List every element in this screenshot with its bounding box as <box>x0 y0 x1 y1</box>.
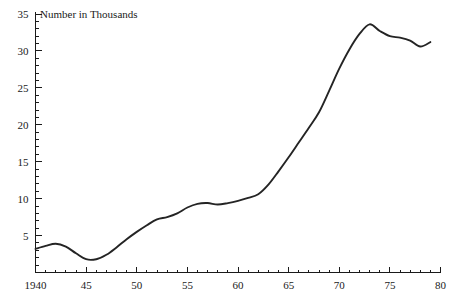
x-axis-tick-label: 50 <box>131 279 143 291</box>
x-axis-tick-label: 80 <box>435 279 447 291</box>
x-axis-tick-label: 45 <box>81 279 93 291</box>
data-series-line <box>36 24 431 260</box>
y-axis-tick-labels: 5101520253035 <box>18 8 30 242</box>
y-axis-major-ticks <box>36 14 42 273</box>
x-axis-tick-label: 60 <box>233 279 245 291</box>
y-axis-tick-label: 10 <box>18 193 30 205</box>
x-axis-tick-label: 75 <box>384 279 396 291</box>
y-axis-tick-label: 5 <box>23 230 29 242</box>
x-axis-tick-label: 1940 <box>25 279 48 291</box>
y-axis-tick-label: 35 <box>18 8 30 20</box>
y-axis-tick-label: 20 <box>18 119 30 131</box>
x-axis-tick-label: 65 <box>283 279 295 291</box>
chart-container: 5101520253035 19404550556065707580 Numbe… <box>0 0 454 299</box>
y-axis-tick-label: 30 <box>18 45 30 57</box>
chart-title: Number in Thousands <box>40 8 138 20</box>
x-axis-tick-label: 55 <box>182 279 194 291</box>
line-chart: 5101520253035 19404550556065707580 Numbe… <box>0 0 454 299</box>
x-axis-tick-label: 70 <box>334 279 346 291</box>
y-axis-tick-label: 15 <box>18 156 30 168</box>
y-axis-tick-label: 25 <box>18 82 30 94</box>
x-axis-tick-labels: 19404550556065707580 <box>25 279 447 291</box>
